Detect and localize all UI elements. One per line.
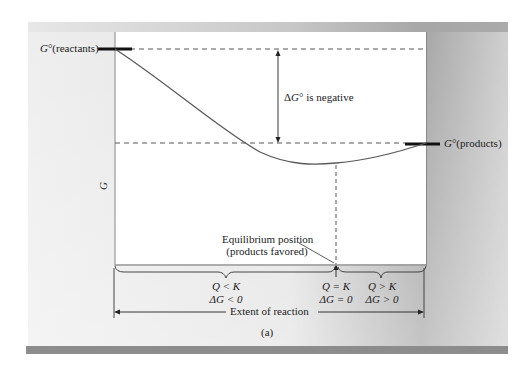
x-axis-label: Extent of reaction <box>230 305 309 317</box>
products-label: G°(products) <box>444 137 502 149</box>
bottom-bar <box>26 346 508 354</box>
region-left-label: Q < K ΔG < 0 <box>196 280 256 306</box>
reactants-label-rest: °(reactants) <box>48 42 99 54</box>
equilibrium-label-line2: (products favored) <box>222 245 312 257</box>
equilibrium-label: Equilibrium position (products favored) <box>222 233 312 257</box>
equilibrium-label-line1: Equilibrium position <box>222 233 312 245</box>
y-axis-label: G <box>97 182 109 190</box>
delta-g-annotation: ΔG° is negative <box>284 91 354 103</box>
products-label-rest: °(products) <box>452 137 502 149</box>
gibbs-energy-diagram: GG°(reactants)°(reactants) G°(products) … <box>0 0 532 371</box>
plot-area <box>115 32 426 264</box>
panel-label: (a) <box>261 326 273 338</box>
region-right-label: Q > K ΔG > 0 <box>352 280 412 306</box>
panel-top-band <box>28 22 508 32</box>
reactants-label: GG°(reactants)°(reactants) <box>40 42 99 54</box>
